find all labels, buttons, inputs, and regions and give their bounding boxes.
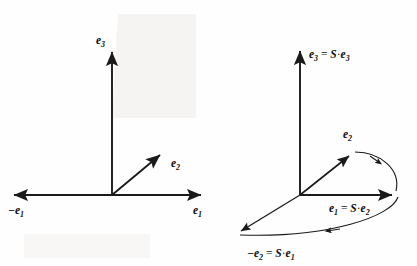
left-e1-negative-label: −e1 (8, 204, 24, 219)
left-e3-label: e3 (96, 34, 105, 49)
right-diagram-group: e3 = S·e3 e1 = S·e2 e2 −e2 = S·e1 (240, 48, 398, 262)
right-minus-e2-vector-arrow (241, 195, 300, 231)
vector-diagram-canvas: e3 e1 −e1 e2 (0, 0, 417, 266)
right-e2-vector-arrow (300, 156, 349, 195)
left-e1-positive-label: e1 (193, 204, 202, 219)
rotation-arc-e1-to-minus-e2 (240, 197, 398, 235)
figure-root: e3 e1 −e1 e2 (0, 0, 417, 266)
rotation-arc-e2-to-e1 (355, 152, 397, 191)
right-minus-e2-equation-label: −e2 = S·e1 (247, 247, 295, 262)
scan-smudge (112, 14, 196, 118)
left-e2-label: e2 (171, 157, 180, 172)
scan-smudge-lower (24, 234, 150, 258)
left-e2-vector-arrow (112, 155, 160, 195)
right-e1-equation-label: e1 = S·e2 (329, 202, 370, 217)
right-e3-equation-label: e3 = S·e3 (309, 48, 350, 63)
right-e2-label: e2 (343, 128, 352, 143)
